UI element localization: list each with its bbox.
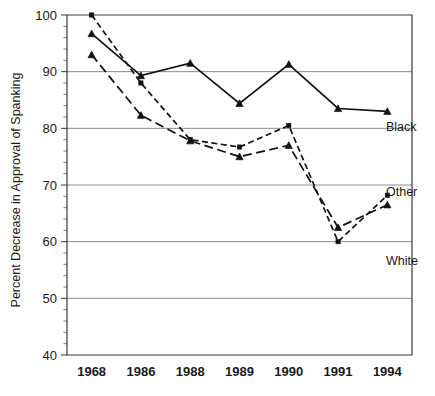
x-tick-label: 1986 xyxy=(126,364,155,379)
y-axis-title: Percent Decrease in Approval of Spanking xyxy=(9,73,23,308)
data-point-marker-square xyxy=(287,123,291,127)
data-point-marker-square xyxy=(139,81,143,85)
x-tick-label: 1988 xyxy=(176,364,205,379)
y-tick-label: 40 xyxy=(43,348,57,363)
y-tick-label: 50 xyxy=(43,291,57,306)
y-tick-label: 90 xyxy=(43,64,57,79)
series-label-white: White xyxy=(386,254,418,268)
data-point-marker-square xyxy=(90,13,94,17)
x-tick-label: 1990 xyxy=(274,364,303,379)
data-point-marker-square xyxy=(336,240,340,244)
spanking-approval-line-chart: 405060708090100 196819861988198919901991… xyxy=(0,0,435,396)
data-point-marker-square xyxy=(237,145,241,149)
series-label-black: Black xyxy=(386,120,417,134)
series-label-other: Other xyxy=(386,185,417,199)
x-tick-label: 1991 xyxy=(324,364,353,379)
y-tick-label: 100 xyxy=(35,8,57,23)
x-tick-label: 1968 xyxy=(77,364,106,379)
chart-canvas: 405060708090100 196819861988198919901991… xyxy=(0,0,435,396)
y-tick-label: 70 xyxy=(43,178,57,193)
y-axis-title-text: Percent Decrease in Approval of Spanking xyxy=(9,73,23,308)
x-tick-label: 1989 xyxy=(225,364,254,379)
x-tick-label: 1994 xyxy=(373,364,403,379)
y-tick-label: 80 xyxy=(43,121,57,136)
plot-background xyxy=(0,0,435,396)
y-tick-label: 60 xyxy=(43,234,57,249)
